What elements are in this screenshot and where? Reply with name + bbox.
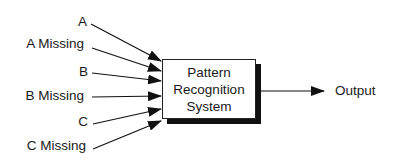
input-arrow-b bbox=[92, 73, 161, 81]
input-arrow-c bbox=[93, 109, 161, 124]
output-label: Output bbox=[335, 83, 376, 99]
system-line-3: System bbox=[186, 98, 231, 115]
input-label-c-missing: C Missing bbox=[27, 138, 86, 154]
input-arrow-c-missing bbox=[93, 121, 161, 149]
system-line-2: Recognition bbox=[173, 81, 244, 98]
input-arrow-a bbox=[91, 24, 161, 61]
input-label-c: C bbox=[78, 114, 88, 130]
pattern-recognition-system-box: Pattern Recognition System bbox=[162, 59, 256, 119]
input-label-b: B bbox=[79, 64, 88, 80]
input-arrow-a-missing bbox=[92, 48, 161, 71]
input-arrow-b-missing bbox=[92, 96, 161, 97]
system-line-1: Pattern bbox=[187, 64, 231, 81]
input-label-a: A bbox=[78, 14, 87, 30]
input-label-b-missing: B Missing bbox=[25, 88, 84, 104]
input-label-a-missing: A Missing bbox=[26, 36, 84, 52]
